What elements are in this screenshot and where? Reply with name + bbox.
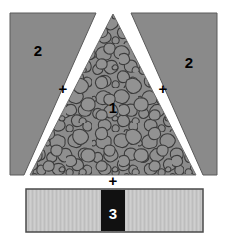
right-wedge-label: 2	[185, 54, 193, 71]
center-aggregate-label: 1	[109, 99, 117, 116]
plus-left-operator: +	[59, 80, 68, 97]
left-wedge-label: 2	[34, 42, 42, 59]
composite-diagram: 2 2 1 + + + 3	[0, 0, 227, 240]
plus-bottom-operator: +	[109, 172, 118, 189]
bottom-bar-band-label: 3	[109, 205, 117, 222]
figure-canvas: 2 2 1 + + + 3	[0, 0, 227, 240]
bottom-bar-region: 3	[26, 189, 203, 232]
plus-right-operator: +	[159, 80, 168, 97]
